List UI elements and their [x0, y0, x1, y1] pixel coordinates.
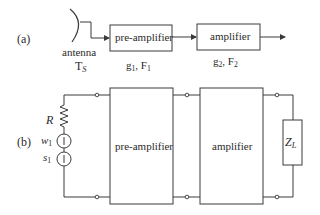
- load-top-wire: [263, 95, 293, 120]
- load-impedance-label: ZL: [285, 136, 296, 150]
- antenna-label: antenna: [62, 47, 96, 58]
- preamp-label-a: pre-amplifier: [115, 32, 173, 43]
- source-bottom-wire: [64, 166, 110, 197]
- antenna-temperature-label: TS: [75, 60, 87, 74]
- antenna-feed-wire: [80, 22, 109, 38]
- resistor-icon: [60, 105, 68, 134]
- amplifier-chain-diagram: (a) antenna TS pre-amplifier g1, F1 ampl…: [0, 0, 320, 215]
- preamp-params-label: g1, F1: [126, 60, 151, 73]
- part-a-label: (a): [17, 33, 30, 45]
- terminal-icon: [185, 93, 189, 97]
- preamp-label-b: pre-amplifier: [115, 141, 173, 152]
- source-top-wire: [64, 95, 110, 105]
- terminal-icon: [185, 195, 189, 199]
- antenna-icon: [70, 9, 79, 42]
- signal-source-label: s1: [43, 152, 51, 165]
- amp-params-label: g2, F2: [213, 56, 238, 69]
- terminal-icon: [275, 195, 279, 199]
- load-bottom-wire: [263, 165, 293, 197]
- part-b-label: (b): [17, 136, 31, 148]
- noise-source-label: w1: [41, 135, 52, 148]
- amp-label-a: amplifier: [210, 31, 250, 42]
- amp-label-b: amplifier: [212, 141, 252, 152]
- terminal-icon: [95, 195, 99, 199]
- terminal-icon: [275, 93, 279, 97]
- resistor-label: R: [46, 114, 53, 126]
- terminal-icon: [95, 93, 99, 97]
